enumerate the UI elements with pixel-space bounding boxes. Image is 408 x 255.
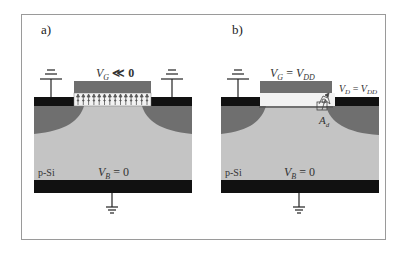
ground-icon bbox=[161, 70, 183, 97]
mosfet-diagram: VG ≪ 0 p-Si VB = 0 bbox=[0, 0, 408, 255]
gate-voltage-label-a: VG ≪ 0 bbox=[96, 66, 134, 82]
bulk-contact-a bbox=[34, 180, 192, 193]
ground-icon bbox=[293, 193, 305, 213]
gate-electrode-a bbox=[74, 81, 151, 93]
substrate-label-b: p-Si bbox=[225, 167, 242, 178]
panel-b-device: VG = VDD VD = VDD Ad p-Si VB = 0 bbox=[221, 66, 379, 213]
drain-voltage-label-b: VD = VDD bbox=[339, 83, 377, 96]
ground-icon bbox=[40, 70, 62, 97]
gate-electrode-b bbox=[260, 81, 332, 93]
panel-a-device: VG ≪ 0 p-Si VB = 0 bbox=[34, 66, 192, 213]
drain-contact-a bbox=[151, 97, 192, 106]
gate-oxide-a bbox=[74, 93, 151, 106]
ground-icon bbox=[227, 70, 249, 97]
ground-icon bbox=[106, 193, 118, 213]
source-contact-b bbox=[221, 97, 260, 106]
source-contact-a bbox=[34, 97, 74, 106]
gate-voltage-label-b: VG = VDD bbox=[270, 66, 315, 82]
bulk-voltage-label-b: VB = 0 bbox=[284, 165, 315, 181]
bulk-contact-b bbox=[221, 180, 379, 193]
substrate-label-a: p-Si bbox=[38, 167, 55, 178]
bulk-voltage-label-a: VB = 0 bbox=[98, 165, 129, 181]
drain-contact-b bbox=[335, 97, 379, 106]
